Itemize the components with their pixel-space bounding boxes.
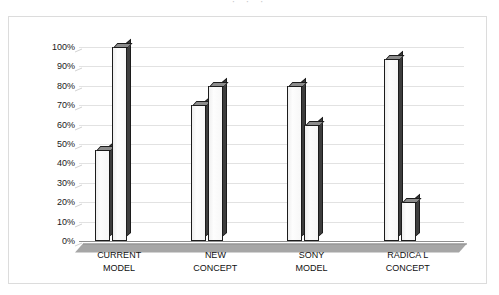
bar-front-face [287,86,302,241]
x-category-line: RADICA L [353,249,463,262]
bar-front-face [304,125,319,241]
bar-front-face [208,86,223,241]
y-tick-label-50: 50% [15,139,75,149]
cropped-title-remnant: · · · [0,0,499,14]
y-tick-label-90: 90% [15,61,75,71]
x-category-label-1: CURRENTMODEL [64,249,174,275]
bar-4-2[interactable] [401,202,417,241]
x-category-line: CONCEPT [160,262,270,275]
bar-front-face [95,150,110,241]
plot-area [79,47,464,241]
gridline-70 [79,105,464,106]
gridline-0 [79,241,464,242]
y-tick-label-10: 10% [15,217,75,227]
y-tick-label-60: 60% [15,120,75,130]
gridline-80 [79,86,464,87]
bar-4-1[interactable] [384,59,400,241]
bar-2-1[interactable] [191,105,207,241]
bar-1-1[interactable] [95,150,111,241]
x-category-label-2: NEWCONCEPT [160,249,270,275]
x-axis: CURRENTMODELNEWCONCEPTSONYMODELRADICA LC… [79,249,469,289]
bar-front-face [112,47,127,241]
x-category-line: NEW [160,249,270,262]
y-tick-label-100: 100% [15,42,75,52]
x-category-label-4: RADICA LCONCEPT [353,249,463,275]
gridline-30 [79,183,464,184]
gridline-40 [79,163,464,164]
bar-2-2[interactable] [208,86,224,241]
x-category-line: MODEL [64,262,174,275]
x-category-line: CONCEPT [353,262,463,275]
gridline-50 [79,144,464,145]
x-category-line: SONY [257,249,367,262]
bar-3-2[interactable] [304,125,320,241]
x-category-label-3: SONYMODEL [257,249,367,275]
bar-3-1[interactable] [287,86,303,241]
y-tick-label-40: 40% [15,158,75,168]
y-tick-label-80: 80% [15,81,75,91]
gridline-90 [79,66,464,67]
x-category-line: CURRENT [64,249,174,262]
y-axis: 100%90%80%70%60%50%40%30%20%10%0% [11,47,75,241]
y-tick-label-20: 20% [15,197,75,207]
bar-front-face [401,202,416,241]
chart-frame: 100%90%80%70%60%50%40%30%20%10%0% CURREN… [8,16,487,284]
y-tick-label-70: 70% [15,100,75,110]
bar-1-2[interactable] [112,47,128,241]
bar-front-face [384,59,399,241]
y-tick-label-0: 0% [15,236,75,246]
x-category-line: MODEL [257,262,367,275]
y-tick-label-30: 30% [15,178,75,188]
bar-front-face [191,105,206,241]
gridline-60 [79,125,464,126]
gridline-100 [79,47,464,48]
